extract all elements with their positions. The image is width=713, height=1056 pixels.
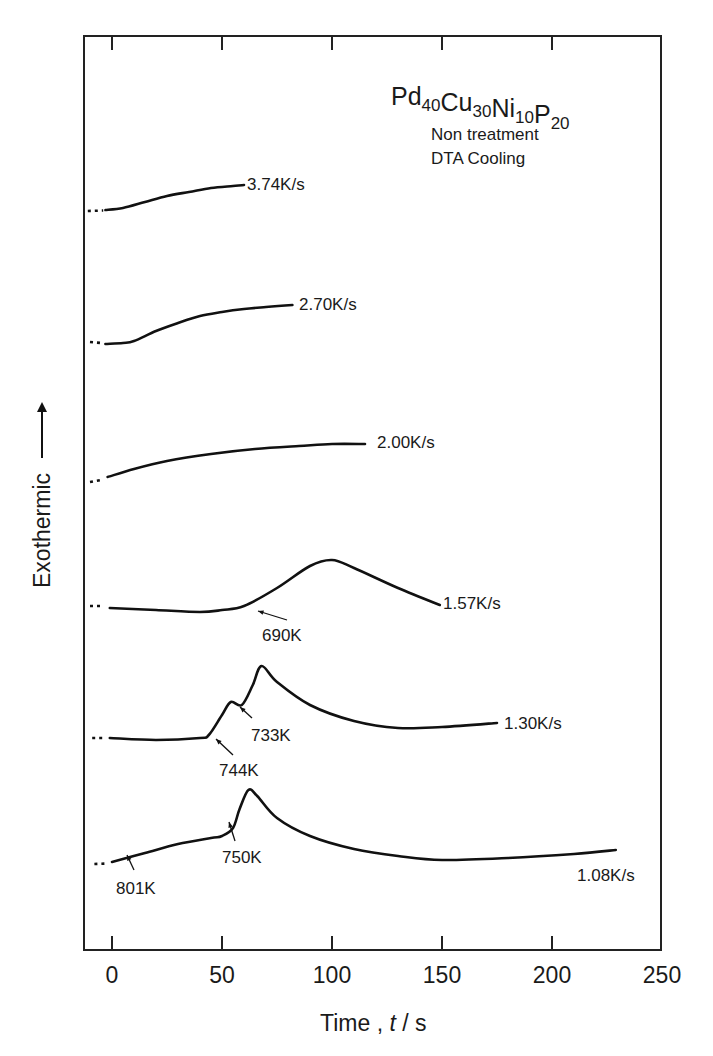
cooling-rate-label: 2.70K/s — [299, 295, 357, 314]
dta-curve-130 — [110, 666, 497, 740]
x-tick-labels: 050100150200250 — [106, 962, 682, 988]
cooling-rate-label: 3.74K/s — [247, 175, 305, 194]
x-tick-label: 0 — [106, 962, 119, 988]
temperature-label: 733K — [251, 726, 291, 745]
dta-curve-157 — [110, 560, 440, 612]
x-tick-label: 250 — [643, 962, 681, 988]
dta-curve-270 — [105, 305, 292, 344]
rate-labels: 3.74K/s2.70K/s2.00K/s1.57K/s1.30K/s1.08K… — [247, 175, 635, 885]
dashed-extrapolation — [90, 342, 101, 343]
y-axis-label: Exothermic — [29, 473, 55, 588]
dta-curve-374 — [105, 185, 244, 210]
temperature-label: 690K — [262, 626, 302, 645]
x-tick-label: 100 — [313, 962, 351, 988]
x-tick-label: 200 — [533, 962, 571, 988]
cooling-rate-label: 2.00K/s — [377, 433, 435, 452]
dashed-extrapolation — [90, 480, 101, 482]
dta-curve-108 — [112, 789, 616, 862]
dta-chart: 050100150200250 3.74K/s2.70K/s2.00K/s1.5… — [0, 0, 713, 1056]
cooling-rate-label: 1.08K/s — [577, 866, 635, 885]
x-tick-label: 150 — [423, 962, 461, 988]
temperature-label: 750K — [222, 848, 262, 867]
curves — [88, 185, 616, 864]
temperature-annotations: 690K744K733K801K750K — [116, 610, 302, 898]
cooling-rate-label: 1.57K/s — [443, 594, 501, 613]
dta-curve-200 — [108, 444, 365, 477]
dashed-extrapolation — [94, 864, 107, 865]
temperature-label: 744K — [219, 761, 259, 780]
x-ticks — [112, 36, 552, 950]
arrowhead-icon — [258, 610, 264, 614]
note-line-2: DTA Cooling — [431, 149, 525, 168]
temperature-label: 801K — [116, 879, 156, 898]
arrow-up-icon — [37, 402, 47, 458]
cooling-rate-label: 1.30K/s — [504, 714, 562, 733]
y-axis-title: Exothermic — [29, 402, 55, 588]
x-axis-title: Time , t / s — [320, 1010, 427, 1036]
note-line-1: Non treatment — [431, 125, 539, 144]
x-tick-label: 50 — [209, 962, 235, 988]
dashed-extrapolation — [88, 211, 103, 212]
plot-frame — [84, 36, 661, 950]
